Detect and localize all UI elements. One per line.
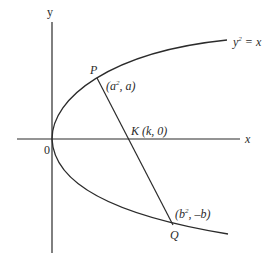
q-coord-close: , –b) <box>189 207 211 221</box>
equation-exponent: 2 <box>238 35 242 43</box>
origin-label: 0 <box>44 144 50 156</box>
y-axis-label: y <box>47 6 53 18</box>
equation-rhs: = x <box>242 35 261 49</box>
point-p-coordinates: (a2, a) <box>106 80 136 92</box>
point-p-label: P <box>90 64 97 76</box>
point-k-label: K (k, 0) <box>131 125 167 137</box>
q-coord-exponent: 2 <box>185 207 189 215</box>
x-axis-label: x <box>245 133 250 145</box>
point-q-label: Q <box>170 229 179 241</box>
p-coord-exponent: 2 <box>116 79 120 87</box>
k-coordinates: (k, 0) <box>142 124 167 138</box>
curve-equation-label: y2 = x <box>233 36 261 48</box>
parabola-chord-diagram: y x 0 y2 = x P (a2, a) K (k, 0) Q (b2, –… <box>0 0 275 254</box>
point-q-coordinates: (b2, –b) <box>175 208 211 220</box>
q-coord-open: (b <box>175 207 185 221</box>
p-coord-close: , a) <box>120 79 136 93</box>
chord-pq <box>97 78 173 225</box>
p-coord-open: (a <box>106 79 116 93</box>
k-name: K <box>131 124 139 138</box>
